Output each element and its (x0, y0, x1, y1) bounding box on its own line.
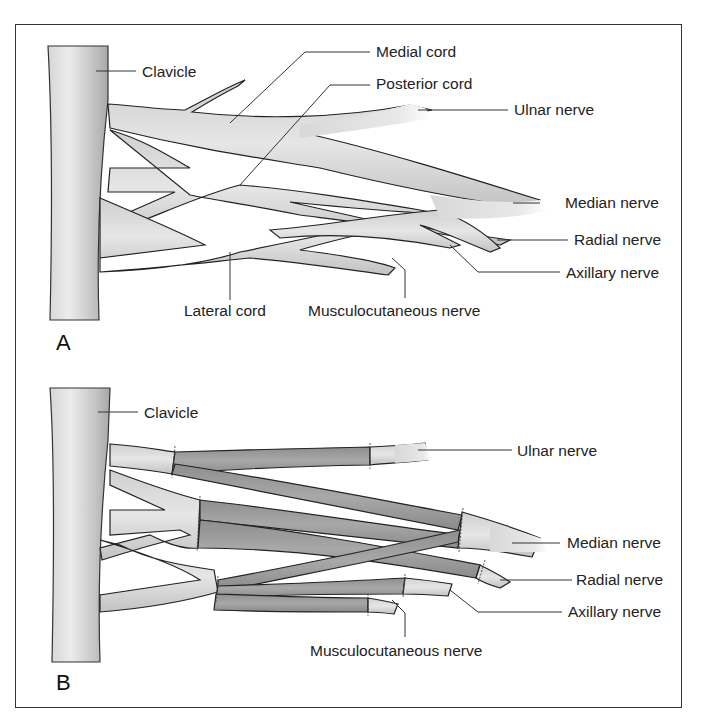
label-clavicle-b: Clavicle (144, 404, 198, 421)
label-ulnar-nerve-a: Ulnar nerve (514, 101, 594, 118)
panel-b: Clavicle Ulnar nerve Median nerve Radial… (50, 388, 663, 695)
label-lateral-cord: Lateral cord (184, 302, 266, 319)
label-musculocutaneous-nerve-a: Musculocutaneous nerve (308, 302, 480, 319)
panel-letter-a: A (56, 330, 71, 355)
panel-letter-b: B (56, 670, 71, 695)
label-radial-nerve-b: Radial nerve (576, 571, 663, 588)
graft-lateral-to-musculocutaneous-b (214, 594, 368, 612)
label-median-nerve-b: Median nerve (567, 534, 661, 551)
clavicle-bone-a (48, 46, 108, 320)
proximal-stump-middle-b (100, 470, 200, 560)
label-medial-cord: Medial cord (376, 43, 456, 60)
clavicle-bone-b (50, 388, 110, 662)
label-axillary-nerve-a: Axillary nerve (566, 264, 659, 281)
label-posterior-cord: Posterior cord (376, 75, 472, 92)
panel-a: Clavicle Medial cord Posterior cord Ulna… (48, 43, 661, 355)
distal-musculocutaneous-b (368, 598, 398, 614)
label-musculocutaneous-nerve-b: Musculocutaneous nerve (310, 642, 482, 659)
label-clavicle-a: Clavicle (142, 63, 196, 80)
brachial-plexus-diagram: Clavicle Medial cord Posterior cord Ulna… (0, 0, 707, 717)
proximal-stump-upper-b (110, 444, 175, 474)
distal-axillary-b (403, 578, 452, 596)
distal-radial-b (476, 565, 510, 588)
label-median-nerve-a: Median nerve (565, 194, 659, 211)
label-ulnar-nerve-b: Ulnar nerve (517, 442, 597, 459)
label-radial-nerve-a: Radial nerve (574, 231, 661, 248)
label-axillary-nerve-b: Axillary nerve (568, 603, 661, 620)
